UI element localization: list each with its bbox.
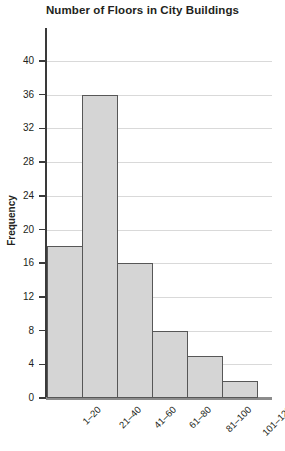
y-axis-tick-label: 24 [0, 191, 34, 201]
histogram-bar [117, 263, 153, 398]
y-axis-tick [39, 128, 46, 130]
y-axis-tick-label: 16 [0, 258, 34, 268]
x-axis-tick-label: 81–100 [224, 404, 254, 434]
y-axis-tick-label: 0 [0, 393, 34, 403]
y-axis-tick [39, 296, 46, 298]
y-axis-tick-label: 36 [0, 90, 34, 100]
y-axis-tick [39, 60, 46, 62]
y-axis-tick-label: 8 [0, 326, 34, 336]
y-axis-tick-label: 20 [0, 225, 34, 235]
y-axis-tick [39, 195, 46, 197]
y-axis-tick-label: 28 [0, 157, 34, 167]
y-axis-tick-label: 12 [0, 292, 34, 302]
y-axis-tick [39, 94, 46, 96]
histogram-bar [152, 331, 188, 398]
x-axis-tick-label: 61–80 [187, 404, 213, 430]
chart-title: Number of Floors in City Buildings [0, 4, 285, 16]
y-axis-tick-label: 4 [0, 359, 34, 369]
gridline [46, 162, 272, 163]
x-axis-tick-label: 1–20 [80, 404, 103, 427]
histogram-bar [187, 356, 223, 398]
gridline [46, 230, 272, 231]
y-axis-tick [39, 397, 46, 399]
x-axis-tick-label: 41–60 [152, 404, 178, 430]
histogram-bar [47, 246, 83, 398]
y-axis-tick-label: 32 [0, 123, 34, 133]
y-axis-tick [39, 161, 46, 163]
gridline [46, 61, 272, 62]
y-axis-tick [39, 229, 46, 231]
gridline [46, 196, 272, 197]
x-axis-tick-label: 101–120 [260, 404, 285, 438]
y-axis-tick-label: 40 [0, 56, 34, 66]
y-axis-tick [39, 262, 46, 264]
histogram-bar [222, 381, 258, 398]
y-axis-tick [39, 330, 46, 332]
histogram-bar [82, 95, 118, 398]
x-axis-tick-label: 21–40 [117, 404, 143, 430]
y-axis-tick [39, 364, 46, 366]
histogram-chart: Number of Floors in City Buildings Frequ… [0, 0, 285, 451]
gridline [46, 95, 272, 96]
gridline [46, 128, 272, 129]
y-axis-title: Frequency [6, 171, 17, 271]
